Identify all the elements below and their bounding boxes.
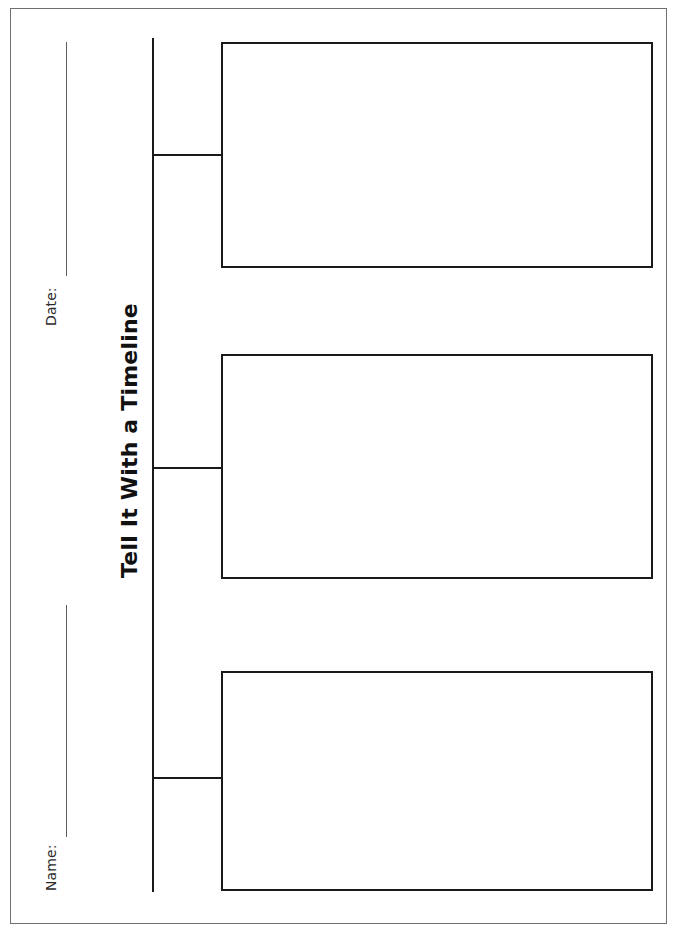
name-field-label: Name: xyxy=(44,844,58,891)
timeline-event-box-1[interactable] xyxy=(221,42,653,268)
timeline-event-text-2[interactable] xyxy=(223,356,651,577)
page-title: Tell It With a Timeline xyxy=(119,303,141,578)
timeline-connector-3 xyxy=(152,777,222,779)
date-write-line[interactable] xyxy=(66,42,67,276)
timeline-event-text-3[interactable] xyxy=(223,673,651,889)
timeline-event-text-1[interactable] xyxy=(223,44,651,266)
timeline-event-box-2[interactable] xyxy=(221,354,653,579)
worksheet-page: Date: Tell It With a Timeline Name: xyxy=(0,0,687,937)
timeline-spine xyxy=(152,38,154,892)
name-write-line[interactable] xyxy=(66,605,67,837)
timeline-connector-1 xyxy=(152,154,222,156)
timeline-event-box-3[interactable] xyxy=(221,671,653,891)
timeline-connector-2 xyxy=(152,467,222,469)
date-field-label: Date: xyxy=(44,287,58,326)
